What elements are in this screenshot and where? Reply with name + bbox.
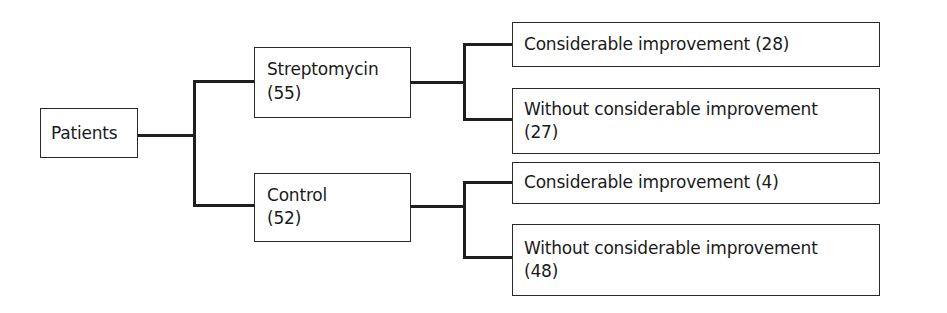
connector-streptomycin-trunk [463,43,466,121]
connector-to-control-outcome-2 [463,256,513,259]
strep-outcome-2-line2: (27) [524,121,873,144]
control-outcome-1-label: Considerable improvement (4) [524,171,873,194]
connector-to-strep-outcome-1 [463,43,513,46]
node-strep-without-improvement: Without considerable improvement (27) [512,88,880,154]
node-control-without-improvement: Without considerable improvement (48) [512,224,880,296]
node-control-considerable-improvement: Considerable improvement (4) [512,162,880,204]
node-streptomycin: Streptomycin (55) [254,47,411,118]
connector-control-out [410,205,466,208]
control-outcome-2-line2: (48) [524,260,873,283]
node-control: Control (52) [254,173,411,242]
connector-to-control [193,204,254,207]
connector-to-streptomycin [193,80,254,83]
connector-streptomycin-out [410,81,466,84]
strep-outcome-1-label: Considerable improvement (28) [524,33,873,56]
node-strep-considerable-improvement: Considerable improvement (28) [512,22,880,67]
node-streptomycin-count: (55) [267,82,404,105]
control-outcome-2-line1: Without considerable improvement [524,237,873,260]
connector-control-trunk [463,181,466,259]
connector-patients-trunk [193,80,196,207]
strep-outcome-2-line1: Without considerable improvement [524,98,873,121]
node-streptomycin-name: Streptomycin [267,58,404,81]
connector-to-control-outcome-1 [463,181,513,184]
node-patients: Patients [40,108,138,158]
connector-patients-out [138,134,196,137]
node-control-count: (52) [267,207,404,230]
connector-to-strep-outcome-2 [463,118,513,121]
node-patients-label: Patients [51,122,131,145]
node-control-name: Control [267,184,404,207]
